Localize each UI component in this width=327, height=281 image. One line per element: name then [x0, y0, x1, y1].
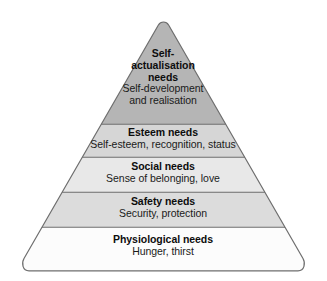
tier-1-title-line-2: actualisation — [93, 60, 233, 72]
tier-2-description: Self-esteem, recognition, status — [48, 139, 278, 151]
tier-4-description: Security, protection — [48, 208, 278, 220]
tier-1-title-line-1: Self- — [93, 48, 233, 60]
tier-1-description: Self-development and realisation — [93, 83, 233, 107]
tier-3-description: Sense of belonging, love — [48, 173, 278, 185]
tier-5-description: Hunger, thirst — [48, 246, 278, 258]
maslow-pyramid-diagram: Self- actualisation needs Self-developme… — [0, 0, 327, 281]
tier-3-social: Social needs Sense of belonging, love — [48, 161, 278, 185]
tier-5-physiological: Physiological needs Hunger, thirst — [48, 234, 278, 258]
tier-2-esteem: Esteem needs Self-esteem, recognition, s… — [48, 127, 278, 151]
tier-4-safety: Safety needs Security, protection — [48, 196, 278, 220]
pyramid-labels: Self- actualisation needs Self-developme… — [0, 0, 327, 281]
tier-1-title: Self- actualisation needs — [93, 48, 233, 83]
tier-1-self-actualisation: Self- actualisation needs Self-developme… — [93, 48, 233, 107]
tier-1-desc-line-2: and realisation — [93, 95, 233, 107]
